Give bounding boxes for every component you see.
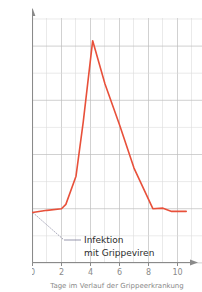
grid-major-horizontal xyxy=(32,46,202,263)
x-tick-label-8: 8 xyxy=(146,268,151,277)
left-margin-mask xyxy=(0,0,32,292)
x-axis xyxy=(33,260,199,266)
grid-major-vertical xyxy=(62,18,178,262)
chart-canvas: 36 37 38 39 40 0 2 4 6 8 10 Körpertemper… xyxy=(0,0,202,292)
x-tick-label-2: 2 xyxy=(59,268,64,277)
fever-curve-chart: 36 37 38 39 40 0 2 4 6 8 10 Körpertemper… xyxy=(0,0,202,292)
x-tick-label-4: 4 xyxy=(88,268,93,277)
annotation-line-2: mit Grippeviren xyxy=(84,248,154,258)
grid-minor-horizontal xyxy=(32,19,202,236)
x-axis-title: Tage im Verlauf der Grippeerkrankung xyxy=(49,282,183,290)
x-tick-label-10: 10 xyxy=(172,268,182,277)
grid-minor-vertical xyxy=(47,18,192,262)
temperature-curve xyxy=(33,122,144,233)
annotation-line-1: Infektion xyxy=(84,235,124,245)
x-tick-label-6: 6 xyxy=(117,268,122,277)
temperature-curve-rendered xyxy=(33,41,187,213)
